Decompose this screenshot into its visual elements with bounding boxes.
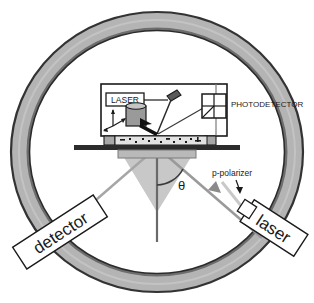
stage-block	[118, 150, 196, 158]
optical-bench-bar	[74, 145, 240, 150]
theta-label: θ	[178, 178, 185, 193]
figure-canvas: LASER PHOTODETECTOR	[0, 0, 314, 303]
ellipsometer-schematic-svg: LASER PHOTODETECTOR	[0, 0, 314, 303]
support-block-left	[104, 136, 115, 145]
sample-plate	[115, 136, 207, 145]
photodetector-label: PHOTODETECTOR	[231, 100, 303, 109]
cylinder-top	[126, 103, 146, 109]
p-polarizer-label: p-polarizer	[212, 168, 252, 178]
